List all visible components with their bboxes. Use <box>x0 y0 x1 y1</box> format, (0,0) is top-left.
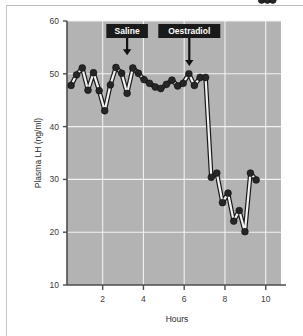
data-point <box>85 87 92 94</box>
y-tick-label-40: 40 <box>50 122 60 132</box>
data-point <box>213 170 220 177</box>
line-chart: 102030405060 246810 Hours Plasma LH (ng/… <box>0 0 303 336</box>
data-point <box>113 64 120 71</box>
data-point <box>225 190 232 197</box>
y-tick-label-10: 10 <box>50 280 60 290</box>
data-point <box>90 69 97 76</box>
data-point <box>157 85 164 92</box>
data-point <box>247 170 254 177</box>
data-point <box>107 81 114 88</box>
annotation-label: Oestradiol <box>168 26 210 36</box>
x-axis-title: Hours <box>166 314 189 324</box>
data-point <box>96 87 103 94</box>
data-point <box>269 0 276 3</box>
data-point <box>236 207 243 214</box>
y-tick-label-30: 30 <box>50 174 60 184</box>
data-point <box>185 70 192 77</box>
y-tick-label-20: 20 <box>50 227 60 237</box>
x-tick-label-2: 2 <box>100 294 105 304</box>
data-point <box>79 65 86 72</box>
data-point <box>73 71 80 78</box>
figure-container: 102030405060 246810 Hours Plasma LH (ng/… <box>0 0 303 336</box>
data-point <box>101 107 108 114</box>
x-tick-label-4: 4 <box>141 294 146 304</box>
y-axis-title: Plasma LH (ng/ml) <box>33 118 43 189</box>
data-point <box>124 90 131 97</box>
data-point <box>242 228 249 235</box>
x-tick-label-10: 10 <box>261 294 271 304</box>
data-point <box>180 80 187 87</box>
y-tick-label-60: 60 <box>50 16 60 26</box>
x-tick-label-6: 6 <box>182 294 187 304</box>
data-point <box>68 82 75 89</box>
y-axis-tick-labels: 102030405060 <box>50 16 60 290</box>
data-point <box>129 65 136 72</box>
y-tick-label-50: 50 <box>50 69 60 79</box>
data-point <box>230 218 237 225</box>
data-point <box>191 82 198 89</box>
x-tick-label-8: 8 <box>223 294 228 304</box>
data-point <box>202 74 209 81</box>
x-axis-tick-labels: 246810 <box>100 294 270 304</box>
annotation-label: Saline <box>115 26 140 36</box>
data-point <box>135 70 142 77</box>
data-point <box>169 77 176 84</box>
data-point <box>118 70 125 77</box>
plot-area-background <box>67 21 281 285</box>
data-point <box>253 177 260 184</box>
data-point <box>219 199 226 206</box>
